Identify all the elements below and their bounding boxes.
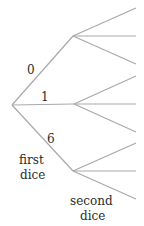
edge-1-leaf-1 (74, 76, 136, 104)
branch-label-0: 0 (27, 63, 35, 77)
second-dice-caption-line1: second (70, 194, 113, 208)
edge-0-leaf-1 (73, 8, 136, 36)
edge-0-leaf-3 (73, 36, 136, 64)
second-dice-caption-line2: dice (80, 209, 105, 223)
branch-label-1: 1 (41, 90, 49, 104)
branch-label-6: 6 (47, 132, 55, 146)
edge-1-leaf-3 (74, 104, 136, 132)
edge-6-leaf-1 (73, 143, 136, 171)
first-dice-caption-line1: first (19, 153, 44, 167)
edge-root-to-1 (12, 104, 74, 105)
probability-tree-diagram: 0 1 6 first dice second dice (0, 0, 144, 226)
first-dice-caption-line2: dice (20, 168, 45, 182)
